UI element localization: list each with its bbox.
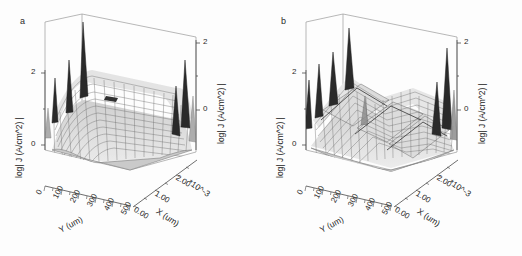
panel-b-label: b bbox=[281, 16, 286, 26]
panel-a-zaxis-left bbox=[41, 70, 45, 150]
panel-a-label: a bbox=[20, 16, 25, 26]
panel-a-zright-tick-2: 2 bbox=[203, 37, 207, 46]
panel-b: b bbox=[261, 0, 522, 256]
panel-b-zright-tick-2: 2 bbox=[464, 37, 468, 46]
panel-a-surface bbox=[45, 22, 196, 172]
panel-a-zaxis-right-title: log| J (A/cm^2) | bbox=[216, 83, 226, 144]
panel-b-zaxis-left-title: log| J (A/cm^2) | bbox=[275, 117, 285, 178]
panel-b-zright-tick-0: 0 bbox=[464, 104, 468, 113]
panel-a-zright-tick-0: 0 bbox=[203, 104, 207, 113]
panel-a-zleft-tick-2: 2 bbox=[31, 67, 35, 76]
panel-a-zaxis-right bbox=[196, 40, 200, 150]
panel-a-zaxis-left-title: log| J (A/cm^2) | bbox=[14, 117, 24, 178]
figure-container: a bbox=[0, 0, 522, 256]
panel-b-zleft-tick-0: 0 bbox=[292, 139, 296, 148]
panel-b-zaxis-right bbox=[457, 40, 461, 150]
panel-b-surface bbox=[305, 28, 457, 172]
panel-b-zaxis-left bbox=[302, 70, 306, 150]
panel-b-zleft-tick-2: 2 bbox=[292, 67, 296, 76]
panel-a-zleft-tick-0: 0 bbox=[31, 139, 35, 148]
panel-b-zaxis-right-title: log| J (A/cm^2) | bbox=[477, 83, 487, 144]
panel-a: a bbox=[0, 0, 261, 256]
